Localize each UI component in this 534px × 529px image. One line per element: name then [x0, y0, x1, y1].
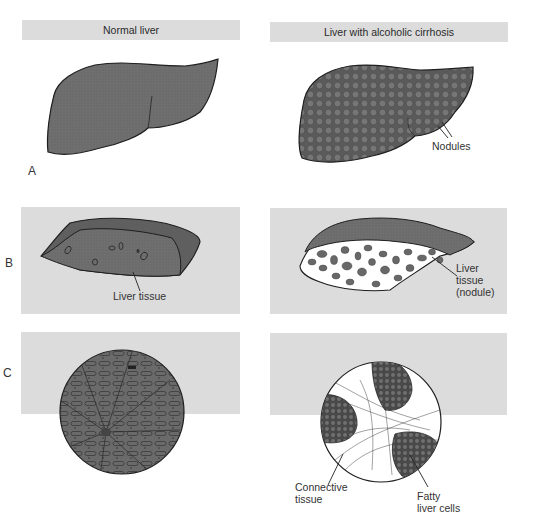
illustration-layer	[0, 0, 534, 529]
cirrhotic-liver-cut-section	[300, 218, 474, 291]
label-fatty-liver-cells-line1: Fatty	[417, 490, 460, 502]
normal-liver-exterior	[47, 59, 218, 154]
label-fatty-liver-cells: Fatty liver cells	[417, 490, 460, 514]
cirrhotic-liver-micro-view	[321, 359, 441, 487]
normal-liver-micro-view	[60, 350, 184, 476]
label-liver-tissue-nodule: Liver tissue (nodule)	[456, 262, 495, 298]
label-connective-tissue-line2: tissue	[295, 493, 348, 505]
label-connective-tissue: Connective tissue	[295, 481, 348, 505]
label-liver-tissue-nodule-line2: tissue	[456, 274, 495, 286]
label-connective-tissue-line1: Connective	[295, 481, 348, 493]
label-liver-tissue-nodule-line3: (nodule)	[456, 286, 495, 298]
label-liver-tissue-nodule-line1: Liver	[456, 262, 495, 274]
label-fatty-liver-cells-line2: liver cells	[417, 502, 460, 514]
label-liver-tissue: Liver tissue	[113, 290, 166, 302]
label-nodules: Nodules	[432, 140, 471, 152]
normal-liver-cut-section	[41, 218, 200, 291]
